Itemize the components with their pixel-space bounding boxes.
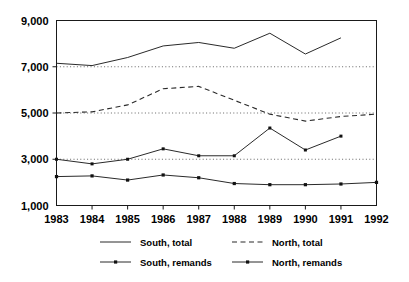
data-point-marker	[90, 174, 93, 177]
x-axis-tick-label: 1986	[151, 213, 175, 225]
x-axis-ticks	[92, 206, 341, 210]
data-point-marker	[339, 135, 342, 138]
x-axis-tick-label: 1989	[258, 213, 282, 225]
x-axis-tick-labels: 1983198419851986198719881989199019911992	[44, 213, 388, 225]
data-point-marker	[55, 158, 58, 161]
x-axis-tick-label: 1985	[115, 213, 139, 225]
data-point-marker	[55, 175, 58, 178]
line-chart: 9,0007,0005,0003,0001,000 19831984198519…	[0, 0, 409, 282]
x-axis-tick-label: 1983	[44, 213, 68, 225]
data-point-marker	[268, 127, 271, 130]
legend-item-label: South, remands	[140, 257, 212, 268]
legend-item[interactable]: North, total	[232, 237, 323, 248]
legend-item-label: South, total	[140, 237, 192, 248]
series-line	[57, 128, 341, 164]
legend-item[interactable]: North, remands	[232, 257, 342, 268]
data-point-marker	[162, 173, 165, 176]
data-series	[57, 86, 377, 121]
chart-figure: 9,0007,0005,0003,0001,000 19831984198519…	[0, 0, 409, 282]
data-point-marker	[339, 182, 342, 185]
x-axis-tick-label: 1990	[293, 213, 317, 225]
legend-item[interactable]: South, remands	[100, 257, 212, 268]
data-series	[57, 33, 341, 65]
data-point-marker	[126, 178, 129, 181]
y-axis-tick-label: 5,000	[21, 107, 49, 119]
x-axis-tick-label: 1991	[329, 213, 353, 225]
data-point-marker	[126, 158, 129, 161]
data-point-marker	[197, 176, 200, 179]
y-axis-tick-labels: 9,0007,0005,0003,0001,000	[21, 15, 49, 212]
x-axis-tick-label: 1984	[80, 213, 105, 225]
gridlines	[57, 67, 377, 160]
data-point-marker	[375, 181, 378, 184]
data-point-marker	[304, 149, 307, 152]
legend-item-label: North, total	[272, 237, 323, 248]
x-axis-tick-label: 1987	[186, 213, 210, 225]
y-axis-tick-label: 1,000	[21, 200, 49, 212]
y-axis-ticks	[53, 67, 57, 160]
data-series-group	[55, 33, 378, 186]
legend-marker-icon	[114, 260, 117, 263]
data-point-marker	[233, 154, 236, 157]
data-point-marker	[304, 183, 307, 186]
chart-legend: South, totalNorth, totalSouth, remandsNo…	[100, 237, 342, 268]
y-axis-tick-label: 3,000	[21, 153, 49, 165]
legend-marker-icon	[246, 260, 249, 263]
x-axis-tick-label: 1988	[222, 213, 246, 225]
data-point-marker	[197, 154, 200, 157]
data-point-marker	[91, 162, 94, 165]
series-line	[57, 175, 377, 185]
data-series	[55, 173, 378, 186]
data-point-marker	[268, 183, 271, 186]
x-axis-tick-label: 1992	[364, 213, 388, 225]
data-point-marker	[233, 182, 236, 185]
series-line	[57, 33, 341, 65]
legend-item[interactable]: South, total	[100, 237, 192, 248]
legend-item-label: North, remands	[272, 257, 342, 268]
data-point-marker	[162, 147, 165, 150]
y-axis-tick-label: 9,000	[21, 15, 49, 27]
y-axis-tick-label: 7,000	[21, 61, 49, 73]
series-line	[57, 86, 377, 121]
